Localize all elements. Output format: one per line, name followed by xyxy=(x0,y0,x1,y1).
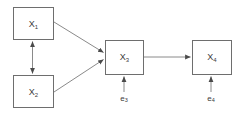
error-term-e3-label: e3 xyxy=(120,94,128,104)
node-x4[interactable]: X4 xyxy=(193,41,232,75)
path-diagram-svg: X1 X2 X3 X4 e3 e4 xyxy=(0,0,242,117)
edge-x1-to-x3 xyxy=(54,22,104,53)
node-x2[interactable]: X2 xyxy=(14,76,54,108)
error-term-e4-label: e4 xyxy=(207,94,215,104)
node-layer: X1 X2 X3 X4 xyxy=(14,8,232,108)
error-term-layer: e3 e4 xyxy=(120,94,215,104)
edge-x2-to-x3 xyxy=(54,60,104,93)
node-x3[interactable]: X3 xyxy=(106,41,144,75)
node-x1[interactable]: X1 xyxy=(14,8,54,40)
path-diagram-canvas: X1 X2 X3 X4 e3 e4 xyxy=(0,0,242,117)
